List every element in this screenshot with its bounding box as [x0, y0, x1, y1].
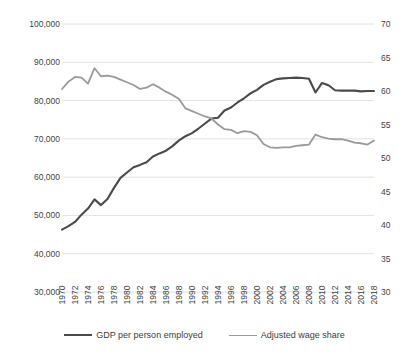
- x-axis-tick: 2006: [292, 286, 301, 305]
- x-axis-tick: 1976: [97, 286, 106, 305]
- x-axis-tick: 1986: [162, 286, 171, 305]
- y-axis-left-tick: 40,000: [34, 250, 60, 259]
- x-axis-tick: 1974: [84, 286, 93, 305]
- x-axis-tick: 2008: [305, 286, 314, 305]
- x-axis-tick: 1972: [71, 286, 80, 305]
- chart-legend: GDP per person employed Adjusted wage sh…: [0, 330, 409, 340]
- x-axis-tick: 2002: [266, 286, 275, 305]
- gridlines: [62, 24, 374, 292]
- x-axis-tick: 2014: [344, 286, 353, 305]
- x-axis-tick: 1988: [175, 286, 184, 305]
- legend-line-swatch-wage: [229, 335, 257, 336]
- y-axis-right-tick: 50: [381, 154, 390, 163]
- x-axis-tick: 2010: [318, 286, 327, 305]
- x-axis-tick: 1990: [188, 286, 197, 305]
- y-axis-left-tick: 50,000: [34, 211, 60, 220]
- chart-container: 30,00040,00050,00060,00070,00080,00090,0…: [0, 0, 409, 354]
- y-axis-right-tick: 65: [381, 54, 390, 63]
- y-axis-left-tick: 90,000: [34, 58, 60, 67]
- legend-line-swatch-gdp: [64, 334, 92, 336]
- y-axis-right-tick: 70: [381, 20, 390, 29]
- x-axis-tick: 1982: [136, 286, 145, 305]
- x-axis-tick: 1984: [149, 286, 158, 305]
- y-axis-right-tick: 55: [381, 121, 390, 130]
- legend-item-adjusted-wage-share[interactable]: Adjusted wage share: [229, 330, 345, 340]
- series-line-adjusted-wage-share: [62, 68, 374, 148]
- x-axis-tick: 1978: [110, 286, 119, 305]
- x-axis-tick: 2018: [370, 286, 379, 305]
- x-axis-tick: 1980: [123, 286, 132, 305]
- y-axis-right-tick: 40: [381, 221, 390, 230]
- y-axis-left-tick: 80,000: [34, 97, 60, 106]
- x-axis-tick: 2000: [253, 286, 262, 305]
- legend-label-gdp: GDP per person employed: [96, 330, 202, 340]
- x-axis-tick: 1970: [58, 286, 67, 305]
- y-axis-left-tick: 60,000: [34, 173, 60, 182]
- x-axis-tick: 2016: [357, 286, 366, 305]
- x-axis-tick: 2004: [279, 286, 288, 305]
- legend-item-gdp-per-person-employed[interactable]: GDP per person employed: [64, 330, 202, 340]
- y-axis-right-tick: 45: [381, 188, 390, 197]
- y-axis-right-tick: 35: [381, 255, 390, 264]
- legend-label-wage: Adjusted wage share: [261, 330, 345, 340]
- x-axis-tick: 1996: [227, 286, 236, 305]
- x-axis-tick: 1998: [240, 286, 249, 305]
- y-axis-left-tick: 100,000: [29, 20, 60, 29]
- x-axis-tick: 1992: [201, 286, 210, 305]
- y-axis-left-tick: 70,000: [34, 135, 60, 144]
- x-axis-tick: 2012: [331, 286, 340, 305]
- y-axis-right-tick: 30: [381, 288, 390, 297]
- x-axis-tick: 1994: [214, 286, 223, 305]
- y-axis-right-tick: 60: [381, 87, 390, 96]
- series-lines: [62, 68, 374, 229]
